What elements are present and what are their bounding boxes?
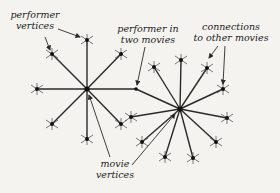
- label-line: two movies: [117, 34, 178, 45]
- label-line: performer in: [117, 23, 178, 34]
- performer-vertex: [221, 112, 233, 124]
- label-connections: connections to other movies: [193, 21, 268, 43]
- movie-vertex: [84, 86, 89, 91]
- shared-performer-vertex: [134, 87, 138, 91]
- label-line: performer: [10, 9, 59, 20]
- performer-vertex: [187, 152, 199, 164]
- performer-vertex: [175, 54, 187, 66]
- edge: [87, 89, 121, 124]
- edge: [180, 109, 216, 142]
- edge: [52, 54, 87, 89]
- edge: [87, 54, 121, 89]
- annotation-arrows: [45, 29, 225, 165]
- label-performer-in-two-movies: performer in two movies: [117, 23, 178, 45]
- performer-vertex: [148, 61, 160, 73]
- label-line: to other movies: [193, 32, 268, 43]
- performer-vertex: [159, 151, 171, 163]
- label-line: vertices: [10, 20, 59, 31]
- performer-vertex: [81, 133, 93, 145]
- label-line: vertices: [96, 169, 134, 180]
- performer-vertex: [201, 62, 213, 74]
- edge: [52, 89, 87, 124]
- performer-vertex: [81, 34, 93, 46]
- label-movie-vertices: movie vertices: [96, 158, 134, 180]
- edge: [180, 60, 181, 109]
- label-performer-vertices: performer vertices: [10, 9, 59, 31]
- performer-vertex: [217, 83, 229, 95]
- edge: [180, 109, 227, 118]
- movie-vertex: [177, 106, 182, 111]
- edge: [180, 109, 193, 158]
- label-line: movie: [96, 158, 134, 169]
- label-line: connections: [193, 21, 268, 32]
